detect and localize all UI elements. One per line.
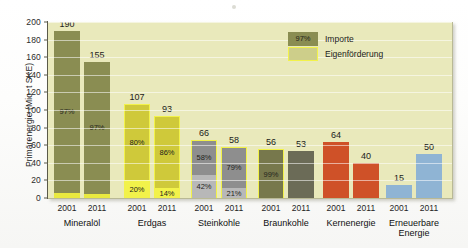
y-axis-tick-mark bbox=[44, 162, 48, 163]
bar-segment-importe: 80% bbox=[125, 105, 149, 180]
gridline bbox=[48, 57, 452, 58]
x-axis-year-label: 2001 bbox=[390, 203, 409, 213]
bar-erneuerbareenergie-2001[interactable] bbox=[386, 185, 412, 198]
y-axis-tick-label: 20 bbox=[2, 175, 48, 185]
bar-segment-importe: 97% bbox=[54, 31, 80, 193]
y-axis-tick-label: 60 bbox=[2, 140, 48, 150]
bar-segment-eigenfoerderung bbox=[84, 194, 110, 198]
gridline bbox=[48, 163, 452, 164]
bar-braunkohle-2011[interactable] bbox=[288, 151, 314, 198]
y-axis-tick-mark bbox=[44, 22, 48, 23]
legend-item-importe: 97% Importe bbox=[288, 31, 383, 46]
legend-swatch-importe: 97% bbox=[288, 32, 318, 46]
y-axis-tick-label: 200 bbox=[2, 17, 48, 27]
bar-erdgas-2001[interactable]: 80%20% bbox=[124, 104, 150, 198]
x-axis-year-label: 2011 bbox=[357, 203, 375, 213]
y-axis: Primärenergie (Mio. t SKE) 0204060801001… bbox=[0, 0, 48, 220]
gridline bbox=[48, 145, 452, 146]
bar-value-label: 50 bbox=[424, 142, 434, 152]
y-axis-tick-label: 180 bbox=[2, 35, 48, 45]
y-axis-tick-label: 140 bbox=[2, 70, 48, 80]
y-axis-tick-mark bbox=[44, 39, 48, 40]
x-axis-year-label: 2001 bbox=[195, 203, 214, 213]
bar-segment-eigenfoerderung bbox=[323, 142, 349, 198]
y-axis-tick-mark bbox=[44, 198, 48, 199]
x-axis-year-label: 2001 bbox=[262, 203, 281, 213]
primary-energy-bar-chart: Primärenergie (Mio. t SKE) 0204060801001… bbox=[0, 0, 468, 248]
y-axis-tick-label: 120 bbox=[2, 87, 48, 97]
gridline bbox=[48, 92, 452, 93]
bar-segment-eigenfoerderung: 14% bbox=[155, 188, 179, 199]
page-speck-artifact bbox=[232, 5, 236, 9]
gridline bbox=[48, 40, 452, 41]
x-axis-year-label: 2011 bbox=[88, 203, 106, 213]
bar-segment-eigenfoerderung: 21% bbox=[222, 188, 246, 199]
x-axis-year-label: 2011 bbox=[225, 203, 243, 213]
legend-swatch-eigenfoerderung bbox=[288, 47, 318, 61]
legend-label-importe: Importe bbox=[325, 34, 354, 44]
bar-value-label: 66 bbox=[199, 128, 209, 138]
x-axis-category-label: Kernenergie bbox=[326, 218, 375, 228]
bar-kernenergie-2001[interactable] bbox=[323, 142, 349, 198]
plot-area: 97%19097%15580%20%10786%14%9358%42%6679%… bbox=[48, 22, 453, 199]
x-axis-year-label: 2001 bbox=[58, 203, 77, 213]
x-axis-year-label: 2001 bbox=[128, 203, 147, 213]
y-axis-tick-label: 0 bbox=[2, 193, 48, 203]
x-axis-category-label: Mineralöl bbox=[64, 218, 101, 228]
bar-steinkohle-2011[interactable]: 79%21% bbox=[221, 147, 247, 198]
legend-label-eigenfoerderung: Eigenförderung bbox=[325, 49, 383, 59]
x-axis-year-label: 2011 bbox=[158, 203, 176, 213]
x-axis-category-label: Braunkohle bbox=[263, 218, 309, 228]
bar-segment-eigenfoerderung: 99% bbox=[259, 150, 283, 199]
x-axis-year-label: 2001 bbox=[327, 203, 346, 213]
bar-value-label: 58 bbox=[229, 135, 239, 145]
y-axis-tick-mark bbox=[44, 57, 48, 58]
bar-value-label: 64 bbox=[331, 130, 341, 140]
y-axis-tick-mark bbox=[44, 92, 48, 93]
y-axis-tick-mark bbox=[44, 127, 48, 128]
x-axis-year-label: 2011 bbox=[420, 203, 438, 213]
bar-segment-eigenfoerderung bbox=[386, 185, 412, 198]
x-axis-category-label: ErneuerbareEnergie bbox=[389, 218, 439, 238]
bar-segment-eigenfoerderung: 20% bbox=[125, 180, 149, 199]
gridline bbox=[48, 128, 452, 129]
y-axis-tick-label: 100 bbox=[2, 105, 48, 115]
bar-segment-importe: 79% bbox=[222, 148, 246, 188]
bar-segment-eigenfoerderung bbox=[288, 151, 314, 198]
bar-steinkohle-2001[interactable]: 58%42% bbox=[191, 140, 217, 198]
gridline bbox=[48, 180, 452, 181]
bar-segment-eigenfoerderung: 42% bbox=[192, 175, 216, 199]
bar-braunkohle-2001[interactable]: 1%99% bbox=[258, 149, 284, 198]
bar-minerall-2001[interactable]: 97% bbox=[54, 31, 80, 198]
gridline bbox=[48, 75, 452, 76]
bar-segment-eigenfoerderung bbox=[54, 193, 80, 198]
bar-value-label: 190 bbox=[59, 22, 74, 29]
x-axis-category-label: Erdgas bbox=[138, 218, 167, 228]
y-axis-tick-label: 40 bbox=[2, 158, 48, 168]
bar-minerall-2011[interactable]: 97% bbox=[84, 62, 110, 198]
y-axis-tick-mark bbox=[44, 145, 48, 146]
legend: 97% Importe Eigenförderung bbox=[288, 31, 383, 61]
y-axis-tick-mark bbox=[44, 180, 48, 181]
y-axis-tick-mark bbox=[44, 110, 48, 111]
x-axis-year-label: 2011 bbox=[292, 203, 310, 213]
gridline bbox=[48, 22, 452, 23]
bar-value-label: 40 bbox=[361, 151, 371, 161]
bar-segment-eigenfoerderung bbox=[416, 154, 442, 198]
y-axis-tick-label: 160 bbox=[2, 52, 48, 62]
gridline bbox=[48, 110, 452, 111]
bar-erneuerbareenergie-2011[interactable] bbox=[416, 154, 442, 198]
y-axis-tick-mark bbox=[44, 74, 48, 75]
x-axis-category-label: Steinkohle bbox=[198, 218, 240, 228]
legend-item-eigenfoerderung: Eigenförderung bbox=[288, 46, 383, 61]
y-axis-tick-label: 80 bbox=[2, 123, 48, 133]
